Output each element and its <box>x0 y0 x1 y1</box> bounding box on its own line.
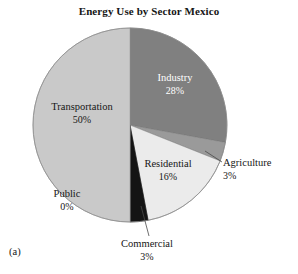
figure-panel: Energy Use by Sector Mexico Industry 28%… <box>0 0 298 274</box>
pie-label-residential: Residential 16% <box>131 158 205 183</box>
pie-label-public-value: 0% <box>40 201 94 214</box>
pie-label-commercial: Commercial 3% <box>105 238 189 263</box>
pie-label-agriculture: Agriculture 3% <box>223 157 289 182</box>
pie-label-residential-name: Residential <box>144 158 191 169</box>
pie-label-industry: Industry 28% <box>142 72 208 97</box>
pie-label-agriculture-value: 3% <box>223 170 289 183</box>
pie-label-commercial-value: 3% <box>105 251 189 264</box>
pie-label-agriculture-name: Agriculture <box>223 157 271 168</box>
pie-label-transportation-value: 50% <box>34 114 130 127</box>
pie-label-transportation: Transportation 50% <box>34 101 130 126</box>
pie-label-industry-name: Industry <box>158 72 193 83</box>
pie-label-public-name: Public <box>54 188 81 199</box>
subfigure-label: (a) <box>9 246 21 257</box>
pie-chart <box>0 0 298 274</box>
pie-label-residential-value: 16% <box>131 171 205 184</box>
pie-label-commercial-name: Commercial <box>121 238 173 249</box>
pie-label-public: Public 0% <box>40 188 94 213</box>
pie-label-industry-value: 28% <box>142 85 208 98</box>
pie-label-transportation-name: Transportation <box>51 101 112 112</box>
